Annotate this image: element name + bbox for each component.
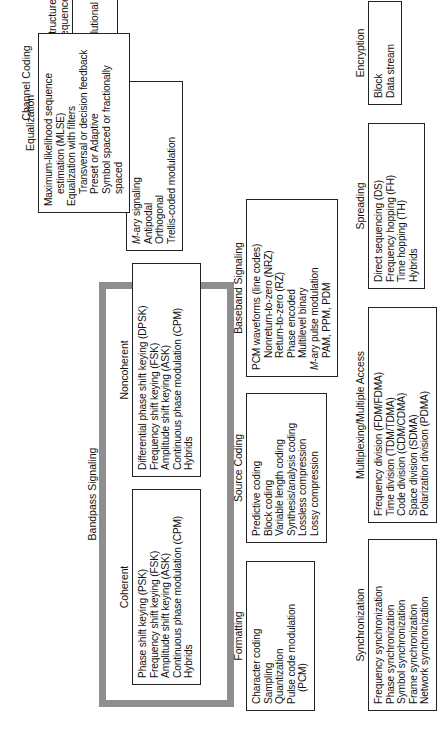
section-list-encryption: BlockData stream xyxy=(373,8,396,98)
list-item: Multilevel binary xyxy=(297,206,309,370)
section-title-multiplexing-multiple-access: Multiplexing/Multiple Access xyxy=(354,307,366,523)
section-list-source-coding: Predictive codingBlock codingVariable le… xyxy=(251,400,321,536)
list-item: M-ary pulse modulation xyxy=(309,206,321,370)
section-list-multiplexing-multiple-access: Frequency division (FDM/FDMA)Time divisi… xyxy=(373,314,431,516)
list-item: Lossy compression xyxy=(309,400,321,536)
list-item: PAM, PPM, PDM xyxy=(321,206,333,370)
list-item: Trellis-coded modulation xyxy=(166,88,178,244)
list-item: Nonreturn-to-zero (NRZ) xyxy=(263,206,275,370)
list-item: Frequency shift keying (FSK) xyxy=(149,270,161,470)
list-item: Transversal or decision feedback xyxy=(78,40,90,206)
list-item: Equalization with filters xyxy=(66,40,78,206)
list-item: Block xyxy=(373,8,385,98)
section-list-synchronization: Frequency synchronizationPhase synchroni… xyxy=(373,546,431,704)
list-item: Amplitude shift keying (ASK) xyxy=(160,496,172,678)
list-item: Amplitude shift keying (ASK) xyxy=(160,270,172,470)
list-item: Symbol spaced or fractionally xyxy=(101,40,113,206)
list-item: Continuous phase modulation (CPM) xyxy=(172,270,184,470)
list-item: Lossless compression xyxy=(297,400,309,536)
section-title-source-coding: Source Coding xyxy=(232,393,244,543)
section-baseband-signaling: Baseband Signaling PCM waveforms (line c… xyxy=(232,199,338,377)
list-item: Network synchronization xyxy=(419,546,431,704)
list-item: Space division (SDMA) xyxy=(408,314,420,516)
section-title-equalization: Equalization xyxy=(24,33,36,213)
section-box-formatting: Character codingSamplingQuantizationPuls… xyxy=(246,561,315,711)
section-box-encryption: BlockData stream xyxy=(368,1,402,105)
list-item: Time division (TDM/TDMA) xyxy=(385,314,397,516)
section-formatting: Formatting Character codingSamplingQuant… xyxy=(232,561,315,711)
list-item: Frequency shift keying (FSK) xyxy=(149,496,161,678)
section-list-coherent: Phase shift keying (PSK)Frequency shift … xyxy=(137,496,195,678)
section-title-coherent: Coherent xyxy=(118,489,130,685)
list-item: Synthesis/analysis coding xyxy=(286,400,298,536)
section-title-encryption: Encryption xyxy=(354,1,366,105)
section-box-waveform: M-ary signalingAntipodalOrthogonalTrelli… xyxy=(126,81,183,251)
list-item: Frame synchronization xyxy=(408,546,420,704)
section-coherent: Coherent Phase shift keying (PSK)Frequen… xyxy=(118,489,201,685)
section-box-spreading: Direct sequencing (DS)Frequency hopping … xyxy=(368,123,425,289)
section-multiplexing-multiple-access: Multiplexing/Multiple Access Frequency d… xyxy=(354,307,437,523)
list-item: Frequency hopping (FH) xyxy=(385,130,397,282)
list-item: Frequency division (FDM/FDMA) xyxy=(373,314,385,516)
list-item: PCM waveforms (line codes) xyxy=(251,206,263,370)
list-item: estimation (MLSE) xyxy=(55,40,67,206)
section-box-synchronization: Frequency synchronizationPhase synchroni… xyxy=(368,539,437,711)
section-box-noncoherent: Differential phase shift keying (DPSK)Fr… xyxy=(132,263,201,477)
bandpass-signaling-group-title: Bandpass Signaling xyxy=(86,409,98,579)
list-item: Character coding xyxy=(251,568,263,704)
section-spreading: Spreading Direct sequencing (DS)Frequenc… xyxy=(354,123,425,289)
list-item: Continuous phase modulation (CPM) xyxy=(172,496,184,678)
section-list-equalization: Maximum-likelihood sequenceestimation (M… xyxy=(43,40,124,206)
list-item: Hybrids xyxy=(183,270,195,470)
list-item: Data stream xyxy=(385,8,397,98)
list-item: Hybrids xyxy=(183,496,195,678)
section-encryption: Encryption BlockData stream xyxy=(354,1,402,105)
list-item: Preset or Adaptive xyxy=(89,40,101,206)
list-item: Antipodal xyxy=(143,88,155,244)
list-item: Variable length coding xyxy=(274,400,286,536)
section-list-formatting: Character codingSamplingQuantizationPuls… xyxy=(251,568,309,704)
list-item: (PCM) xyxy=(297,568,309,704)
list-item: Predictive coding xyxy=(251,400,263,536)
list-item: Hybrids xyxy=(408,130,420,282)
section-box-coherent: Phase shift keying (PSK)Frequency shift … xyxy=(132,489,201,685)
list-item: Symbol synchronization xyxy=(396,546,408,704)
list-item: Orthogonal xyxy=(154,88,166,244)
list-item: Frequency synchronization xyxy=(373,546,385,704)
list-item: Phase encoded xyxy=(286,206,298,370)
list-item: Sampling xyxy=(263,568,275,704)
list-item: Direct sequencing (DS) xyxy=(373,130,385,282)
section-title-noncoherent: Noncoherent xyxy=(118,263,130,477)
section-box-equalization: Maximum-likelihood sequenceestimation (M… xyxy=(38,33,130,213)
section-box-source-coding: Predictive codingBlock codingVariable le… xyxy=(246,393,327,543)
list-item: M-ary signaling xyxy=(131,88,143,244)
section-box-multiplexing-multiple-access: Frequency division (FDM/FDMA)Time divisi… xyxy=(368,307,437,523)
section-title-synchronization: Synchronization xyxy=(354,539,366,711)
list-item: Phase shift keying (PSK) xyxy=(137,496,149,678)
list-item: Pulse code modulation xyxy=(286,568,298,704)
list-item: Polarization division (PDMA) xyxy=(419,314,431,516)
list-item: Block coding xyxy=(263,400,275,536)
section-list-waveform: M-ary signalingAntipodalOrthogonalTrelli… xyxy=(131,88,177,244)
section-list-noncoherent: Differential phase shift keying (DPSK)Fr… xyxy=(137,270,195,470)
list-item: Return-to-zero (RZ) xyxy=(274,206,286,370)
section-title-spreading: Spreading xyxy=(354,123,366,289)
list-item: Maximum-likelihood sequence xyxy=(43,40,55,206)
section-title-baseband-signaling: Baseband Signaling xyxy=(232,199,244,377)
section-box-baseband-signaling: PCM waveforms (line codes)Nonreturn-to-z… xyxy=(246,199,338,377)
list-item: Differential phase shift keying (DPSK) xyxy=(137,270,149,470)
section-list-baseband-signaling: PCM waveforms (line codes)Nonreturn-to-z… xyxy=(251,206,332,370)
section-title-formatting: Formatting xyxy=(232,561,244,711)
section-synchronization: Synchronization Frequency synchronizatio… xyxy=(354,539,437,711)
section-source-coding: Source Coding Predictive codingBlock cod… xyxy=(232,393,327,543)
section-equalization: Equalization Maximum-likelihood sequence… xyxy=(24,33,130,213)
list-item: spaced xyxy=(113,40,125,206)
list-item: Time hopping (TH) xyxy=(396,130,408,282)
section-list-spreading: Direct sequencing (DS)Frequency hopping … xyxy=(373,130,419,282)
list-item: Code division (CDM/CDMA) xyxy=(396,314,408,516)
list-item: Quantization xyxy=(274,568,286,704)
list-item: Phase synchronization xyxy=(385,546,397,704)
section-noncoherent: Noncoherent Differential phase shift key… xyxy=(118,263,201,477)
